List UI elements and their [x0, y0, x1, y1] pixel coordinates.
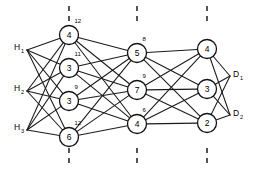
node-label: 4	[135, 119, 140, 129]
graph-edge	[78, 104, 128, 121]
network-diagram: 41231139612587946432 H1H2H3D1D2	[0, 0, 262, 173]
output-terminal-base: D	[233, 108, 239, 118]
graph-node[interactable]: 3	[198, 80, 217, 99]
graph-node[interactable]: 79	[128, 73, 147, 100]
node-label: 6	[67, 132, 72, 142]
graph-edge	[27, 50, 60, 64]
node-label: 3	[67, 96, 72, 106]
node-weight-label: 9	[143, 73, 147, 79]
graph-edge	[27, 91, 63, 130]
graph-edge	[147, 89, 198, 90]
node-label: 4	[67, 30, 72, 40]
graph-node[interactable]: 46	[128, 107, 147, 134]
input-terminal-label: H3	[14, 122, 24, 134]
graph-node[interactable]: 311	[60, 51, 82, 78]
input-terminal-label: H1	[14, 42, 24, 54]
graph-node[interactable]: 412	[60, 18, 82, 45]
graph-node[interactable]: 39	[60, 84, 79, 111]
graph-edge	[78, 126, 127, 135]
input-terminal-subscript: 3	[21, 128, 24, 134]
input-terminal-base: H	[14, 83, 20, 93]
node-label: 7	[135, 85, 140, 95]
layer2-layer3-edge-group	[143, 50, 200, 124]
node-weight-label: 9	[75, 84, 79, 90]
output-terminal-subscript: 1	[240, 75, 243, 81]
graph-edge	[216, 115, 230, 120]
input-terminal-label: H2	[14, 83, 24, 95]
node-weight-label: 12	[75, 120, 82, 126]
node-weight-label: 8	[143, 36, 147, 42]
node-label: 5	[135, 48, 140, 58]
layer1-layer2-edge-group	[75, 37, 131, 135]
node-weight-label: 6	[143, 107, 147, 113]
graph-node[interactable]: 2	[198, 114, 217, 133]
input-terminal-base: H	[14, 122, 20, 132]
node-label: 3	[67, 63, 72, 73]
input-terminal-base: H	[14, 42, 20, 52]
graph-node[interactable]: 58	[128, 36, 147, 63]
output-terminal-subscript: 2	[240, 114, 243, 120]
graph-edge	[27, 130, 60, 135]
graph-edge	[77, 95, 129, 131]
node-weight-label: 12	[75, 18, 82, 24]
output-terminal-base: D	[233, 69, 239, 79]
graph-node[interactable]: 4	[198, 40, 217, 59]
graph-edge	[146, 50, 197, 53]
node-weight-label: 11	[75, 51, 82, 57]
network-diagram-canvas: 41231139612587946432 H1H2H3D1D2	[0, 0, 262, 173]
graph-edge	[27, 38, 60, 50]
output-terminal-label: D2	[233, 108, 243, 120]
input-edge-group	[27, 38, 65, 135]
output-terminal-label: D1	[233, 69, 243, 81]
input-terminal-subscript: 2	[21, 89, 24, 95]
node-label: 2	[205, 118, 210, 128]
graph-edge	[147, 123, 198, 124]
node-label: 4	[205, 44, 210, 54]
input-terminal-subscript: 1	[21, 48, 24, 54]
node-label: 3	[205, 84, 210, 94]
